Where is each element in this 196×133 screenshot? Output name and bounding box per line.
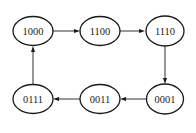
arrowhead-left-icon: [53, 97, 59, 101]
state-label: 0011: [90, 94, 111, 105]
arrowhead-down-icon: [163, 78, 167, 84]
arrowhead-right-icon: [139, 29, 145, 33]
state-label: 0111: [23, 94, 43, 105]
arrowhead-right-icon: [74, 29, 80, 33]
edge-0011-to-0111: [53, 97, 80, 101]
arrowhead-left-icon: [120, 97, 126, 101]
state-diagram: 1000 1100 1110 0001 0011 0111: [0, 0, 196, 133]
edge-0111-to-1000: [31, 46, 35, 84]
state-node-1110: 1110: [146, 16, 184, 46]
state-node-0001: 0001: [147, 84, 184, 114]
state-label: 1100: [90, 26, 111, 37]
edge-1000-to-1100: [53, 29, 80, 33]
state-label: 1000: [23, 26, 44, 37]
state-label: 1110: [155, 26, 175, 37]
edge-1100-to-1110: [120, 29, 145, 33]
state-label: 0001: [155, 94, 176, 105]
state-node-0111: 0111: [13, 85, 53, 114]
edge-0001-to-0011: [120, 97, 146, 101]
arrowhead-up-icon: [31, 46, 35, 52]
state-node-1000: 1000: [13, 17, 53, 46]
state-node-1100: 1100: [80, 17, 120, 46]
edge-1110-to-0001: [163, 46, 167, 84]
state-node-0011: 0011: [80, 85, 120, 114]
